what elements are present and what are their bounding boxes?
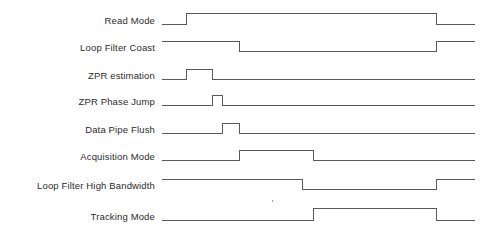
waveform-tracking-mode bbox=[0, 0, 494, 235]
timing-diagram: Read ModeLoop Filter CoastZPR estimation… bbox=[0, 0, 494, 235]
waveform-path bbox=[162, 209, 475, 221]
stray-mark bbox=[272, 200, 273, 202]
